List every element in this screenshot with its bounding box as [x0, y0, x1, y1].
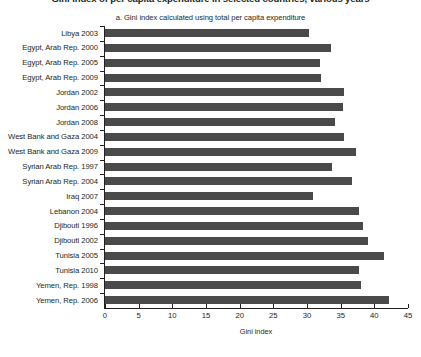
category-label: Yemen, Rep. 2006: [0, 294, 98, 307]
x-axis: 051015202530354045 Gini index: [0, 308, 421, 357]
chart-row: West Bank and Gaza 2009: [0, 145, 421, 160]
y-axis-tick: [100, 100, 104, 101]
category-label: Syrian Arab Rep. 1997: [0, 160, 98, 173]
bar: [105, 266, 359, 274]
category-label: West Bank and Gaza 2009: [0, 145, 98, 158]
bar: [105, 207, 359, 215]
category-label: Libya 2003: [0, 27, 98, 40]
bar: [105, 29, 309, 37]
x-axis-tick-label: 0: [90, 311, 120, 320]
y-axis-tick: [100, 56, 104, 57]
bar: [105, 103, 343, 111]
x-axis-tick: [307, 304, 308, 308]
y-axis-tick: [100, 160, 104, 161]
category-label: Iraq 2007: [0, 190, 98, 203]
bar: [105, 148, 356, 156]
x-axis-line: [104, 308, 408, 309]
chart-row: Tunisia 2005: [0, 249, 421, 264]
chart-row: Djibouti 1996: [0, 219, 421, 234]
x-axis-tick-label: 10: [157, 311, 187, 320]
chart-row: West Bank and Gaza 2004: [0, 130, 421, 145]
y-axis-tick: [100, 26, 104, 27]
chart-row: Iraq 2007: [0, 189, 421, 204]
y-axis-tick: [100, 219, 104, 220]
y-axis-tick: [100, 71, 104, 72]
category-label: Djibouti 1996: [0, 219, 98, 232]
chart-row: Jordan 2008: [0, 115, 421, 130]
x-axis-tick-label: 5: [124, 311, 154, 320]
bar: [105, 222, 363, 230]
y-axis-tick: [100, 115, 104, 116]
x-axis-tick: [105, 304, 106, 308]
clipped-figure-heading: Gini index of per capita expenditure in …: [0, 0, 421, 6]
y-axis-tick: [100, 145, 104, 146]
y-axis-tick: [100, 234, 104, 235]
chart-row: Yemen, Rep. 2006: [0, 293, 421, 308]
x-axis-tick-label: 45: [393, 311, 421, 320]
chart-row: Jordan 2006: [0, 100, 421, 115]
y-axis-tick: [100, 278, 104, 279]
chart-row: Libya 2003: [0, 26, 421, 41]
bar: [105, 118, 335, 126]
y-axis-tick: [100, 293, 104, 294]
x-axis-tick-label: 15: [191, 311, 221, 320]
chart-row: Djibouti 2002: [0, 234, 421, 249]
category-label: Egypt, Arab Rep. 2005: [0, 56, 98, 69]
chart-row: Egypt, Arab Rep. 2000: [0, 41, 421, 56]
chart-row: Jordan 2002: [0, 85, 421, 100]
category-label: Jordan 2008: [0, 116, 98, 129]
bar: [105, 192, 313, 200]
gini-index-bar-chart: Gini index of per capita expenditure in …: [0, 0, 421, 357]
chart-row: Egypt, Arab Rep. 2009: [0, 71, 421, 86]
bar: [105, 177, 352, 185]
x-axis-tick: [139, 304, 140, 308]
bar: [105, 281, 361, 289]
y-axis-tick: [100, 249, 104, 250]
x-axis-tick: [341, 304, 342, 308]
y-axis-tick: [100, 263, 104, 264]
bar: [105, 133, 344, 141]
x-axis-tick: [374, 304, 375, 308]
x-axis-tick-label: 25: [258, 311, 288, 320]
bar: [105, 59, 320, 67]
chart-row: Tunisia 2010: [0, 263, 421, 278]
bar: [105, 237, 368, 245]
category-label: Egypt, Arab Rep. 2009: [0, 71, 98, 84]
x-axis-tick-label: 20: [225, 311, 255, 320]
y-axis-tick: [100, 174, 104, 175]
category-label: Yemen, Rep. 1998: [0, 279, 98, 292]
x-axis-tick: [408, 304, 409, 308]
x-axis-label: Gini index: [104, 327, 408, 336]
category-label: Tunisia 2005: [0, 249, 98, 262]
category-label: West Bank and Gaza 2004: [0, 130, 98, 143]
x-axis-tick-label: 35: [326, 311, 356, 320]
category-label: Egypt, Arab Rep. 2000: [0, 41, 98, 54]
y-axis-tick: [100, 41, 104, 42]
category-label: Jordan 2002: [0, 86, 98, 99]
y-axis-tick: [100, 85, 104, 86]
y-axis-tick: [100, 130, 104, 131]
bar: [105, 296, 389, 304]
category-label: Syrian Arab Rep. 2004: [0, 175, 98, 188]
category-label: Lebanon 2004: [0, 205, 98, 218]
bar: [105, 252, 384, 260]
bar: [105, 88, 344, 96]
category-label: Tunisia 2010: [0, 264, 98, 277]
category-label: Jordan 2006: [0, 101, 98, 114]
y-axis-tick: [100, 204, 104, 205]
chart-title: a. Gini index calculated using total per…: [0, 13, 421, 22]
chart-row: Syrian Arab Rep. 1997: [0, 160, 421, 175]
x-axis-tick: [240, 304, 241, 308]
category-label: Djibouti 2002: [0, 234, 98, 247]
x-axis-tick-label: 40: [359, 311, 389, 320]
bar-rows: Libya 2003Egypt, Arab Rep. 2000Egypt, Ar…: [0, 26, 421, 308]
plot-area: Libya 2003Egypt, Arab Rep. 2000Egypt, Ar…: [0, 26, 421, 309]
bar: [105, 44, 331, 52]
y-axis-tick: [100, 189, 104, 190]
x-axis-tick: [273, 304, 274, 308]
chart-row: Lebanon 2004: [0, 204, 421, 219]
x-axis-tick: [172, 304, 173, 308]
x-axis-tick-label: 30: [292, 311, 322, 320]
chart-row: Yemen, Rep. 1998: [0, 278, 421, 293]
chart-row: Egypt, Arab Rep. 2005: [0, 56, 421, 71]
